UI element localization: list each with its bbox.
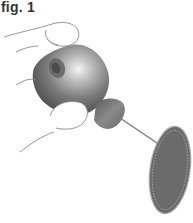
hearing-aid-icon [33, 45, 160, 145]
upper-finger-icon [4, 22, 79, 46]
filter-disc-icon [144, 124, 193, 217]
thumb-icon [20, 102, 87, 152]
hand-device-illustration [0, 0, 193, 223]
